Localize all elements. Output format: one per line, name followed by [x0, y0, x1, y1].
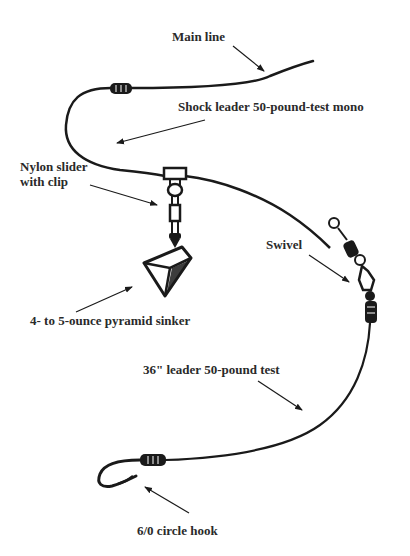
label-leader: 36" leader 50-pound test [143, 362, 280, 377]
nylon-slider-icon [164, 168, 186, 248]
pyramid-sinker-icon [144, 247, 191, 296]
label-main-line: Main line [172, 29, 225, 44]
arrow-swivel [309, 255, 349, 282]
arrow-slider [90, 185, 157, 205]
label-shock-leader: Shock leader 50-pound-test mono [178, 99, 364, 114]
shock-leader-line-right [185, 176, 330, 248]
label-slider-line1: Nylon slider [20, 159, 88, 174]
arrow-hook [145, 487, 189, 513]
arrow-main-line [233, 46, 264, 71]
label-hook: 6/0 circle hook [137, 523, 218, 538]
arrow-shock-leader [117, 120, 205, 143]
arrow-leader [258, 381, 302, 410]
main-line [131, 61, 313, 88]
arrow-sinker [76, 287, 132, 312]
fishing-rig-diagram: Main line Shock leader 50-pound-test mon… [0, 0, 410, 556]
label-sinker: 4- to 5-ounce pyramid sinker [30, 313, 190, 328]
knot-icon-top [110, 83, 132, 94]
label-slider-line2: with clip [20, 174, 68, 189]
label-swivel: Swivel [266, 237, 302, 252]
rig-illustration [0, 0, 410, 556]
swivel-icon [329, 218, 377, 323]
leader-line [165, 323, 370, 460]
hook-knot-icon [140, 454, 166, 466]
